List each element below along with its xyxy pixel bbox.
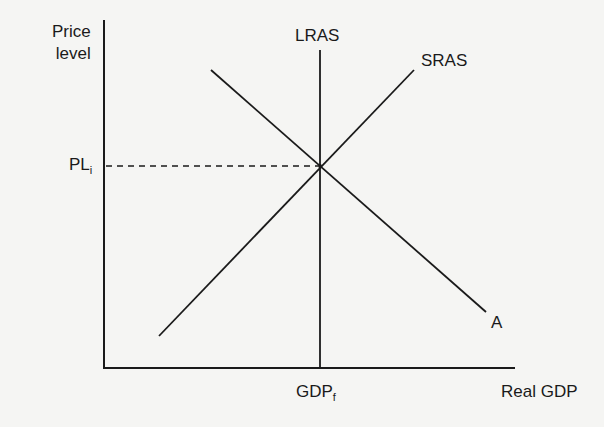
ad-curve [211,70,486,312]
price-level-marker: PLi [69,156,92,176]
gdp-marker-base: GDP [296,382,333,401]
ad-as-diagram: Price level LRAS SRAS A PLi GDPf Real GD… [0,0,604,427]
gdp-full-marker: GDPf [296,383,336,403]
ad-label: A [491,314,502,331]
lras-label: LRAS [295,27,339,44]
gdp-marker-sub: f [333,391,336,403]
y-axis-label-line2: level [52,43,91,65]
y-axis-label: Price level [52,21,91,65]
sras-curve [159,70,414,336]
price-marker-base: PL [69,155,90,174]
equilibrium-point [318,164,322,168]
y-axis-label-line1: Price [52,21,91,43]
price-marker-sub: i [90,164,92,176]
sras-label: SRAS [421,52,467,69]
x-axis-label: Real GDP [501,383,578,400]
